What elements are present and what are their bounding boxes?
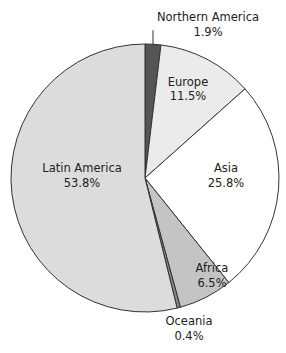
slice-value: 25.8% [208,176,245,190]
slice-label: Africa [196,261,229,275]
slice-label: Asia [214,161,238,175]
slice-value: 53.8% [64,176,101,190]
slice-value: 6.5% [197,276,226,290]
slice-label: Oceania [165,314,212,328]
slice-label: Latin America [42,161,122,175]
slice-label: Europe [168,75,208,89]
slice-label: Northern America [157,10,259,24]
slice-value: 11.5% [170,89,207,103]
slice-value: 0.4% [174,329,203,343]
slice-value: 1.9% [193,25,222,39]
pie-chart: Northern America1.9%Europe11.5%Asia25.8%… [0,0,286,353]
